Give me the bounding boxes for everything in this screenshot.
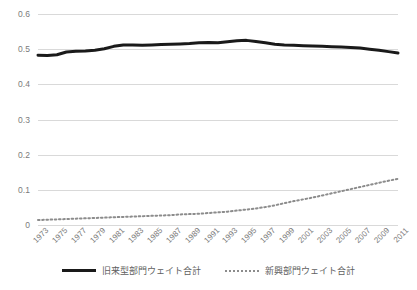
x-axis-tick-label: 1973: [31, 226, 50, 245]
legend-label-emerging-sector: 新興部門ウェイト合計: [265, 264, 355, 277]
series-layer: [38, 14, 398, 225]
x-axis-tick-label: 1997: [259, 226, 278, 245]
series-line-emerging-sector: [38, 179, 398, 220]
legend-swatch-dotted-icon: [225, 270, 259, 272]
y-axis-tick-labels: 00.10.20.30.40.50.6: [0, 14, 34, 225]
series-line-legacy-sector: [38, 40, 398, 55]
x-axis-tick-label: 1999: [278, 226, 297, 245]
x-axis-tick-label: 1989: [183, 226, 202, 245]
x-axis-tick-label: 2009: [372, 226, 391, 245]
y-axis-tick-label: 0: [25, 220, 30, 230]
y-axis-tick-label: 0.5: [18, 44, 30, 54]
legend-label-legacy-sector: 旧来型部門ウェイト合計: [102, 264, 201, 277]
y-axis-tick-label: 0.3: [18, 115, 30, 125]
x-axis-tick-labels: 1973197519771979198119831985198719891991…: [38, 226, 398, 266]
plot-area: [38, 14, 398, 225]
x-axis-tick-label: 2001: [297, 226, 316, 245]
chart-container: 00.10.20.30.40.50.6 19731975197719791981…: [0, 0, 417, 290]
x-axis-tick-label: 1975: [50, 226, 69, 245]
x-axis-tick-label: 1979: [88, 226, 107, 245]
x-axis-tick-label: 1985: [145, 226, 164, 245]
x-axis-tick-label: 1991: [202, 226, 221, 245]
y-axis-tick-label: 0.4: [18, 79, 30, 89]
x-axis-tick-label: 1981: [107, 226, 126, 245]
x-axis-tick-label: 2007: [354, 226, 373, 245]
legend-item-emerging-sector: 新興部門ウェイト合計: [225, 264, 355, 277]
x-axis-tick-label: 1987: [164, 226, 183, 245]
x-axis-tick-label: 2003: [316, 226, 335, 245]
y-axis-tick-label: 0.2: [18, 150, 30, 160]
y-axis-tick-label: 0.6: [18, 9, 30, 19]
x-axis-tick-label: 1995: [240, 226, 259, 245]
x-axis-tick-label: 1977: [69, 226, 88, 245]
chart-legend: 旧来型部門ウェイト合計 新興部門ウェイト合計: [0, 264, 417, 277]
x-axis-tick-label: 2011: [392, 226, 411, 245]
y-axis-tick-label: 0.1: [18, 185, 30, 195]
x-axis-tick-label: 1993: [221, 226, 240, 245]
x-axis-tick-label: 2005: [335, 226, 354, 245]
legend-swatch-solid-icon: [62, 269, 96, 272]
x-axis-tick-label: 1983: [126, 226, 145, 245]
legend-item-legacy-sector: 旧来型部門ウェイト合計: [62, 264, 201, 277]
